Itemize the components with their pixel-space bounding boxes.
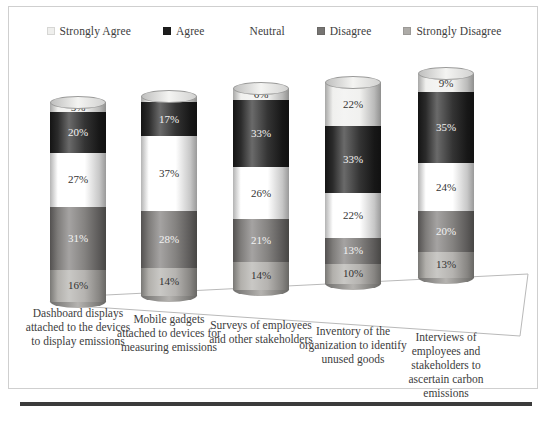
bar-segment[interactable]: 24% [418, 163, 474, 211]
bar-segment-value: 21% [251, 235, 271, 246]
bar-segment[interactable]: 14% [141, 268, 197, 296]
bar-segment-value: 13% [343, 245, 363, 256]
plot-area: 5%20%27%31%16%Dashboard displays attache… [8, 6, 538, 389]
cylinder-top-cap [233, 82, 289, 95]
bar-segment-value: 31% [68, 233, 88, 244]
cylinder-top-cap [50, 96, 106, 109]
bar-segment-value: 16% [68, 280, 88, 291]
bottom-divider [20, 402, 532, 406]
bar-segment[interactable]: 20% [418, 211, 474, 251]
bar-segment[interactable]: 13% [418, 252, 474, 278]
bar-segment[interactable]: 28% [141, 211, 197, 268]
bar-segment[interactable]: 13% [325, 238, 381, 264]
bar-segment-value: 14% [159, 276, 179, 287]
bar-segment-value: 27% [68, 174, 88, 185]
bar-segment-value: 10% [343, 268, 363, 279]
bar-segment-value: 26% [251, 188, 271, 199]
bar-segment-value: 22% [343, 99, 363, 110]
bar-segment-value: 20% [436, 226, 456, 237]
bar-segment-value: 14% [251, 270, 271, 281]
bar-segment-value: 13% [436, 259, 456, 270]
bar-segment-value: 37% [159, 168, 179, 179]
bar-segment[interactable]: 17% [141, 102, 197, 136]
category-label: Interviews of employees and stakeholders… [390, 330, 502, 400]
bar-column[interactable]: 9%35%24%20%13% [414, 74, 478, 278]
cylinder-bar[interactable]: 5%20%27%31%16% [50, 102, 106, 302]
bar-segment[interactable]: 26% [233, 167, 289, 220]
bar-column[interactable]: 6%33%26%21%14% [229, 88, 293, 290]
bar-segment[interactable]: 21% [233, 219, 289, 261]
bar-segment-value: 20% [68, 127, 88, 138]
bar-column[interactable]: 5%20%27%31%16% [46, 102, 110, 302]
cylinder-top-cap [325, 76, 381, 89]
bar-segment-value: 17% [159, 114, 179, 125]
bar-column[interactable]: 22%33%22%13%10% [321, 82, 385, 284]
bar-segment[interactable]: 20% [50, 112, 106, 152]
bar-segment[interactable]: 10% [325, 264, 381, 284]
bar-segment[interactable]: 16% [50, 270, 106, 302]
bar-segment-value: 24% [436, 182, 456, 193]
bar-segment[interactable]: 22% [325, 82, 381, 126]
cylinder-top-cap [141, 90, 197, 103]
cylinder-bar[interactable]: 6%33%26%21%14% [233, 88, 289, 290]
bar-segment-value: 28% [159, 234, 179, 245]
bar-segment-value: 35% [436, 122, 456, 133]
bar-segment[interactable]: 22% [325, 193, 381, 237]
bar-segment[interactable]: 31% [50, 207, 106, 270]
cylinder-bar[interactable]: 9%35%24%20%13% [418, 74, 474, 278]
bar-segment-value: 33% [251, 128, 271, 139]
cylinder-bar[interactable]: 22%33%22%13%10% [325, 82, 381, 284]
bar-segment[interactable]: 35% [418, 92, 474, 163]
cylinder-bar[interactable]: 3%17%37%28%14% [141, 96, 197, 296]
bar-segment-value: 33% [343, 154, 363, 165]
bar-segment[interactable]: 14% [233, 262, 289, 290]
bar-segment[interactable]: 27% [50, 153, 106, 208]
bar-column[interactable]: 3%17%37%28%14% [137, 96, 201, 296]
bar-segment-value: 22% [343, 210, 363, 221]
bar-segment[interactable]: 33% [233, 100, 289, 167]
bar-segment[interactable]: 33% [325, 126, 381, 193]
bar-segment[interactable]: 37% [141, 136, 197, 211]
